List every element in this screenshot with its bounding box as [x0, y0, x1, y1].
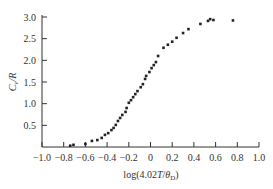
- data-point: [171, 40, 174, 43]
- data-point: [130, 99, 133, 102]
- x-tick-label: −0.8: [55, 152, 73, 163]
- x-tick-label: −0.6: [76, 152, 94, 163]
- data-point: [199, 23, 202, 26]
- x-tick-label: 0.2: [166, 152, 179, 163]
- x-tick-label: −1.0: [33, 152, 51, 163]
- data-point: [232, 19, 235, 22]
- data-point: [182, 32, 185, 35]
- data-point: [119, 117, 122, 120]
- y-tick-label: 1.5: [24, 77, 37, 88]
- x-tick-label: −0.4: [98, 152, 116, 163]
- data-point: [155, 61, 158, 64]
- data-point: [157, 55, 160, 58]
- data-point: [72, 144, 75, 147]
- data-point: [114, 124, 117, 127]
- data-point: [100, 137, 103, 140]
- data-point: [148, 71, 151, 74]
- data-point: [69, 144, 72, 147]
- data-point: [96, 139, 99, 142]
- data-point: [91, 140, 94, 143]
- y-tick-label: 3.0: [24, 12, 37, 23]
- data-point: [125, 107, 128, 110]
- data-point: [128, 102, 131, 105]
- y-tick-label: 2.5: [24, 33, 37, 44]
- data-point: [124, 111, 127, 114]
- data-point: [117, 120, 120, 123]
- data-point: [139, 86, 142, 89]
- data-point: [162, 46, 165, 49]
- data-point: [121, 114, 124, 117]
- x-tick-label: −0.2: [120, 152, 138, 163]
- scatter-chart: −1.0−0.8−0.6−0.4−0.200.20.40.60.81.00.51…: [0, 0, 273, 189]
- data-point: [209, 18, 212, 21]
- x-axis-title: log(4.02T/θD): [123, 169, 178, 182]
- data-point: [145, 75, 148, 78]
- data-point: [142, 83, 145, 86]
- y-tick-label: 1.0: [24, 98, 37, 109]
- y-axis-title: Cv/R: [7, 73, 20, 92]
- y-tick-label: 2.0: [24, 55, 37, 66]
- data-point: [107, 132, 110, 135]
- data-point: [112, 127, 115, 130]
- data-point: [144, 78, 147, 81]
- data-point: [150, 67, 153, 70]
- data-points: [69, 18, 234, 147]
- data-point: [132, 96, 135, 99]
- chart-canvas: −1.0−0.8−0.6−0.4−0.200.20.40.60.81.00.51…: [0, 0, 273, 189]
- data-point: [136, 90, 139, 93]
- data-point: [167, 43, 170, 46]
- x-tick-label: 1.0: [253, 152, 266, 163]
- x-tick-label: 0.8: [231, 152, 244, 163]
- y-tick-label: 0.5: [24, 120, 37, 131]
- data-point: [212, 19, 215, 22]
- data-point: [134, 93, 137, 96]
- x-tick-label: 0.6: [209, 152, 222, 163]
- data-point: [187, 28, 190, 31]
- data-point: [104, 134, 107, 137]
- x-tick-label: 0: [148, 152, 153, 163]
- axes: −1.0−0.8−0.6−0.4−0.200.20.40.60.81.00.51…: [24, 12, 266, 164]
- data-point: [152, 64, 155, 67]
- data-point: [175, 37, 178, 40]
- data-point: [84, 143, 87, 146]
- x-tick-label: 0.4: [188, 152, 201, 163]
